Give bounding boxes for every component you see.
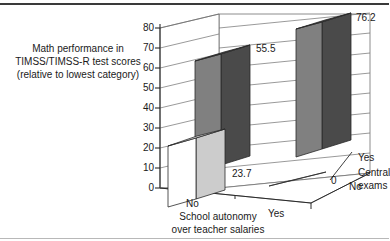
y-tick-20: 20	[132, 142, 154, 153]
y-tick-10: 10	[132, 162, 154, 173]
x-cat-label-no: No	[186, 198, 199, 209]
bar-yes-yes	[296, 13, 351, 157]
z-axis-title-line1: Central	[358, 167, 390, 179]
y-axis	[155, 24, 160, 188]
y-axis-title-line1: Math performance in	[8, 42, 148, 55]
y-axis-title-line3: (relative to lowest category)	[8, 68, 148, 81]
x-axis-title: School autonomy over teacher salaries	[148, 210, 288, 236]
x-axis-title-line2: over teacher salaries	[148, 223, 288, 236]
data-label-0: 0	[331, 175, 337, 186]
y-tick-30: 30	[132, 122, 154, 133]
data-label-55-5: 55.5	[256, 43, 275, 54]
y-axis-title-line2: TIMSS/TIMSS-R test scores	[8, 55, 148, 68]
y-axis-title: Math performance in TIMSS/TIMSS-R test s…	[8, 42, 148, 81]
data-label-76-2: 76.2	[356, 12, 375, 23]
y-tick-0: 0	[132, 182, 154, 193]
data-label-23-7: 23.7	[232, 168, 251, 179]
y-tick-80: 80	[132, 22, 154, 33]
z-cat-label-yes: Yes	[358, 152, 374, 163]
x-axis-title-line1: School autonomy	[148, 210, 288, 223]
y-tick-50: 50	[132, 82, 154, 93]
z-axis-title-line2: exams	[358, 180, 387, 192]
y-tick-40: 40	[132, 102, 154, 113]
